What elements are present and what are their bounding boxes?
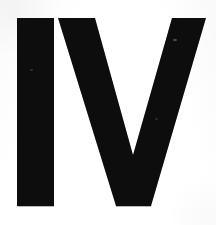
glyph-layer bbox=[0, 0, 216, 225]
iv-glyph-artwork bbox=[0, 0, 216, 225]
scanned-page: IV bbox=[0, 0, 216, 225]
letter-i-stem bbox=[17, 18, 54, 206]
letter-v-body bbox=[58, 18, 206, 206]
